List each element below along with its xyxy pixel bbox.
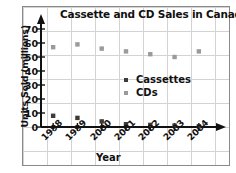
legend-label-cassettes: Cassettes [136,74,191,85]
legend-label-cds: CDs [136,87,158,98]
legend-swatch-cds [124,91,128,95]
x-tick-labels: 1998199920002001200220032004 [0,0,236,173]
x-tick-label: 1999 [64,118,89,143]
x-tick-label: 2000 [88,118,113,143]
x-tick-label: 2001 [112,118,137,143]
legend-swatch-cassettes [124,78,128,82]
x-tick-label: 1998 [40,118,65,143]
x-tick-label: 2004 [185,118,210,143]
chart-container: Cassette and CD Sales in Canada Units So… [0,0,236,173]
x-tick-label: 2003 [161,118,186,143]
x-tick-label: 2002 [137,118,162,143]
